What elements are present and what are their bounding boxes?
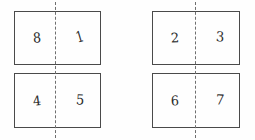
top-right-panel bbox=[152, 11, 240, 65]
bottom-right-panel bbox=[152, 73, 240, 128]
left-group-fold-line bbox=[55, 2, 56, 138]
right-group-fold-line bbox=[195, 2, 196, 138]
digit-cell-top-right-a: 2 bbox=[170, 31, 179, 45]
top-left-panel bbox=[14, 11, 101, 65]
digit-cell-bottom-left-b: 5 bbox=[75, 93, 84, 107]
bottom-left-panel bbox=[14, 73, 101, 128]
digit-cell-bottom-right-b: 7 bbox=[215, 93, 224, 108]
digit-cell-top-left-a: 8 bbox=[32, 31, 41, 45]
digit-cell-bottom-left-a: 4 bbox=[32, 94, 42, 108]
figure-canvas: 8 1 4 5 2 3 6 7 bbox=[0, 0, 255, 140]
digit-cell-bottom-right-a: 6 bbox=[171, 94, 180, 108]
digit-cell-top-right-b: 3 bbox=[216, 30, 225, 44]
